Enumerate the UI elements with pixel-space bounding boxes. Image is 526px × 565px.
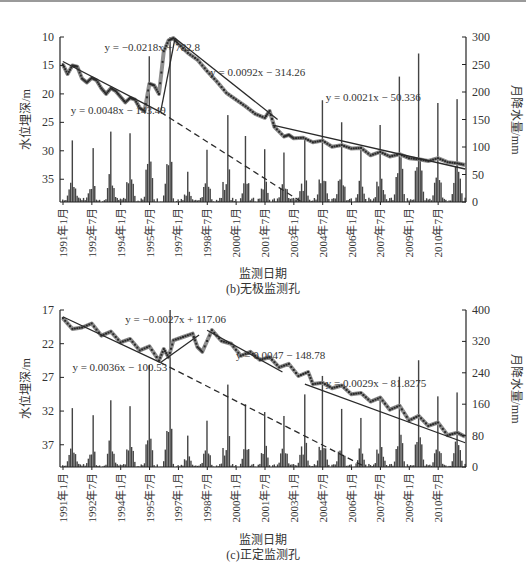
precip-bar	[383, 457, 384, 467]
precip-bar	[152, 178, 153, 202]
precip-bar	[341, 122, 342, 202]
y-right-tick-label: 320	[472, 334, 490, 348]
depth-marker	[290, 366, 292, 368]
depth-marker	[254, 113, 256, 115]
x-tick-label: 1997年1月	[171, 208, 184, 258]
depth-marker	[346, 146, 348, 148]
depth-marker	[398, 405, 400, 407]
y-right-tick-label: 250	[472, 58, 490, 72]
precip-bar	[266, 182, 267, 202]
precip-bar	[75, 454, 76, 467]
precip-bar	[232, 198, 233, 202]
trend-line-fit-2002-2011	[273, 125, 465, 169]
depth-marker	[319, 382, 321, 384]
depth-marker	[69, 69, 71, 71]
precip-bar	[166, 164, 167, 202]
precip-bar	[359, 181, 360, 202]
depth-marker	[80, 75, 82, 77]
precip-bar	[304, 137, 305, 202]
precip-bar	[320, 183, 321, 202]
depth-marker	[272, 122, 274, 124]
precip-bar	[298, 463, 299, 467]
precip-bar	[323, 181, 324, 202]
depth-marker	[297, 137, 299, 139]
depth-marker	[76, 327, 78, 329]
precip-bar	[460, 450, 461, 467]
x-tick-label: 2010年7月	[431, 208, 444, 258]
depth-marker	[189, 333, 191, 335]
depth-marker	[413, 417, 415, 419]
precip-bar	[131, 447, 132, 467]
regression-equation-label: y = 0.0036x − 100.53	[72, 361, 167, 373]
precip-bar	[117, 198, 118, 202]
y-left-tick-label: 25	[42, 115, 54, 129]
depth-marker	[389, 409, 391, 411]
precip-bar	[282, 184, 283, 202]
depth-marker	[194, 57, 196, 59]
precip-bar	[341, 409, 342, 467]
depth-marker	[261, 116, 263, 118]
precip-bar	[243, 183, 244, 202]
precip-bar	[288, 198, 289, 202]
precip-bar	[455, 442, 456, 467]
precip-bar	[376, 182, 377, 202]
precip-bar	[261, 453, 262, 467]
precip-bar	[381, 447, 382, 467]
chart-c-plot: y = 0.0036x − 100.53y = −0.0027x + 117.0…	[0, 290, 526, 565]
x-tick-label: 2001年7月	[258, 473, 271, 523]
precip-bar	[203, 187, 204, 202]
precip-bar	[226, 450, 227, 467]
x-tick-label: 2007年7月	[373, 208, 386, 258]
precip-bar	[299, 455, 300, 467]
depth-marker	[221, 86, 223, 88]
depth-marker	[144, 347, 146, 349]
precip-bar	[68, 455, 69, 467]
precip-bar	[163, 461, 164, 467]
depth-marker	[285, 364, 287, 366]
depth-marker	[99, 85, 101, 87]
depth-marker	[309, 140, 311, 142]
depth-marker	[444, 431, 446, 433]
precip-bar	[91, 454, 92, 467]
depth-marker	[79, 327, 81, 329]
depth-marker	[206, 70, 208, 72]
depth-marker	[360, 392, 362, 394]
depth-marker	[307, 139, 309, 141]
depth-marker	[322, 140, 324, 142]
depth-marker	[201, 64, 203, 66]
depth-marker	[350, 393, 352, 395]
precip-bar	[439, 180, 440, 202]
depth-marker	[437, 157, 439, 159]
depth-marker	[159, 82, 161, 84]
precip-bar	[131, 179, 132, 202]
depth-marker	[372, 153, 374, 155]
depth-marker	[196, 59, 198, 61]
precip-bar	[253, 198, 254, 202]
depth-marker	[430, 424, 432, 426]
depth-marker	[127, 339, 129, 341]
depth-marker	[382, 400, 384, 402]
depth-marker	[406, 416, 408, 418]
precip-bar	[461, 461, 462, 467]
depth-marker	[245, 105, 247, 107]
y-right-tick-label: 0	[472, 460, 478, 474]
depth-marker	[410, 157, 412, 159]
precip-bar	[402, 443, 403, 467]
precip-bar	[83, 198, 84, 202]
precip-bar	[395, 177, 396, 202]
depth-marker	[216, 80, 218, 82]
depth-marker	[458, 163, 460, 165]
depth-marker	[391, 408, 393, 410]
precip-bar	[339, 179, 340, 202]
y-left-tick-label: 22	[42, 337, 54, 351]
depth-marker	[264, 117, 266, 119]
depth-marker	[237, 100, 239, 102]
precip-bar	[94, 186, 95, 202]
precip-bar	[185, 460, 186, 467]
precip-bar	[344, 456, 345, 467]
precip-bar	[200, 198, 201, 202]
x-tick-label: 1992年7月	[85, 208, 98, 258]
depth-marker	[233, 97, 235, 99]
precip-bar	[242, 193, 243, 202]
depth-marker	[206, 340, 208, 342]
